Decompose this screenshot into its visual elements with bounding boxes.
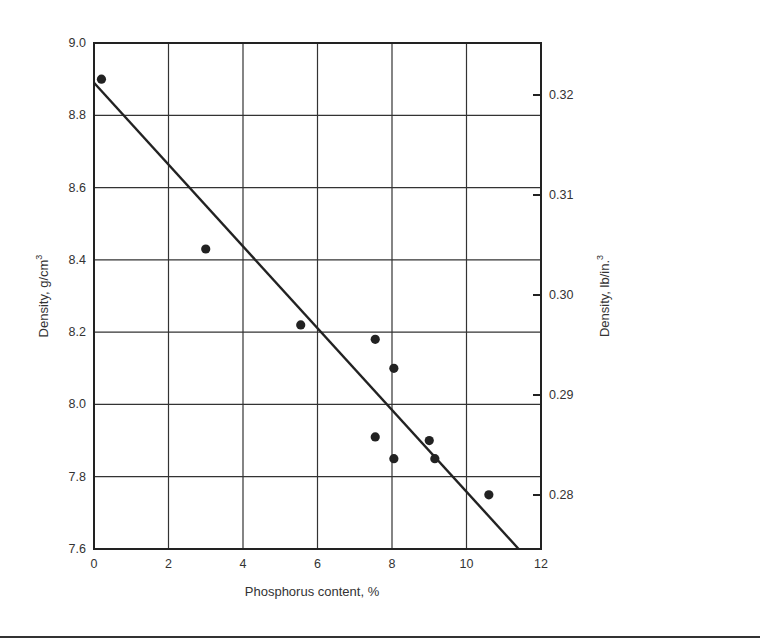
x-tick-label: 12: [534, 557, 548, 571]
y2-axis-title: Density, lb/in.3: [595, 255, 612, 337]
y2-tick-label: 0.29: [549, 388, 573, 402]
y-tick-label: 9.0: [69, 36, 86, 50]
x-tick-label: 4: [240, 557, 247, 571]
y-tick-label: 8.4: [69, 253, 86, 267]
density-vs-phosphorus-chart: 024681012 7.67.88.08.28.48.68.89.0 0.280…: [0, 0, 760, 644]
y2-axis-title-base: Density, lb/in.: [597, 260, 612, 337]
y2-axis-title-sup: 3: [595, 255, 605, 260]
data-point: [201, 244, 210, 253]
x-axis-tick-labels: 024681012: [91, 557, 548, 571]
y-tick-label: 8.8: [69, 108, 86, 122]
data-point: [389, 364, 398, 373]
x-tick-label: 6: [314, 557, 321, 571]
y-tick-label: 7.6: [69, 542, 86, 556]
regression-line: [94, 83, 519, 549]
data-point: [389, 454, 398, 463]
x-tick-label: 0: [91, 557, 98, 571]
y-axis-title-base: Density, g/cm: [36, 260, 51, 338]
y-axis-tick-labels: 7.67.88.08.28.48.68.89.0: [69, 36, 86, 556]
data-point: [484, 490, 493, 499]
grid-lines: [94, 43, 541, 549]
y2-tick-label: 0.28: [549, 488, 573, 502]
data-point: [296, 320, 305, 329]
y-tick-label: 7.8: [69, 470, 86, 484]
x-tick-label: 8: [389, 557, 396, 571]
data-points: [97, 75, 494, 500]
y-axis-title: Density, g/cm3: [34, 255, 51, 338]
y-tick-label: 8.6: [69, 181, 86, 195]
y2-tick-label: 0.32: [549, 88, 573, 102]
y-tick-label: 8.0: [69, 397, 86, 411]
data-point: [425, 436, 434, 445]
x-tick-label: 10: [460, 557, 474, 571]
y2-tick-label: 0.30: [549, 288, 573, 302]
data-point: [371, 335, 380, 344]
y-tick-label: 8.2: [69, 325, 86, 339]
y-axis-title-sup: 3: [34, 255, 44, 260]
data-point: [371, 432, 380, 441]
y2-axis-ticks: 0.280.290.300.310.32: [533, 88, 573, 502]
y2-tick-label: 0.31: [549, 188, 573, 202]
bottom-rule-divider: [0, 636, 760, 638]
data-point: [430, 454, 439, 463]
fit-line: [94, 83, 519, 549]
data-point: [97, 75, 106, 84]
x-axis-title: Phosphorus content, %: [245, 584, 380, 599]
x-tick-label: 2: [165, 557, 172, 571]
